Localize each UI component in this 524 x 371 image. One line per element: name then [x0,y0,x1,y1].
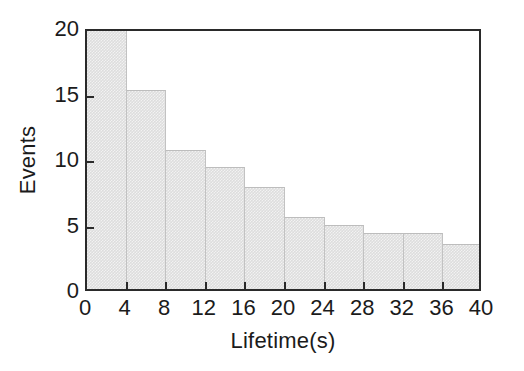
histogram-bar [87,29,127,289]
x-axis-tick [284,282,286,289]
x-axis-tick [205,282,207,289]
x-axis-tick-labels: 0481216202428323640 [85,295,481,325]
histogram-bar [206,167,246,289]
x-axis-tick [403,282,405,289]
histogram-bar [443,244,481,289]
x-axis-tick [442,282,444,289]
bar-series [87,31,479,289]
x-axis-tick [363,282,365,289]
x-axis-tick [244,282,246,289]
x-axis-tick [126,282,128,289]
y-axis-tick-label: 20 [39,16,79,42]
y-axis-tick-label: 5 [39,213,79,239]
x-axis-title: Lifetime(s) [85,328,481,354]
y-axis-tick-labels: 05101520 [29,29,79,291]
histogram-bar [325,225,365,289]
histogram-bar [364,233,404,289]
y-axis-tick [87,227,94,229]
y-axis-tick-label: 15 [39,82,79,108]
y-axis-tick [87,161,94,163]
y-axis-tick [87,96,94,98]
histogram-bar [285,217,325,289]
x-axis-tick [324,282,326,289]
histogram-bar [404,233,444,289]
histogram-bar [166,150,206,289]
x-axis-tick [165,282,167,289]
histogram-bar [245,187,285,289]
histogram-bar [127,90,167,289]
y-axis-tick-label: 10 [39,147,79,173]
histogram-figure: Events 05101520 0481216202428323640 Life… [0,0,524,371]
x-axis-tick-label: 40 [456,295,506,321]
plot-area [85,29,481,291]
